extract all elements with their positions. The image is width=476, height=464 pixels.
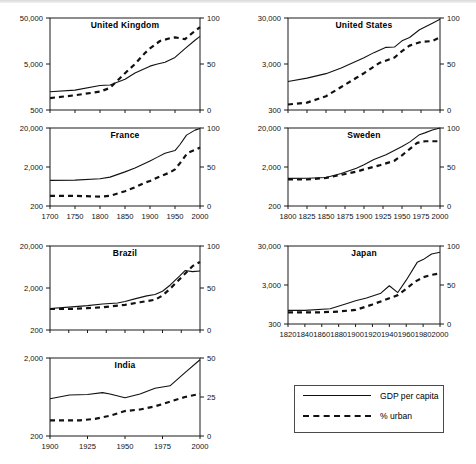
svg-text:0: 0 xyxy=(447,106,451,115)
svg-text:3,000: 3,000 xyxy=(262,281,281,290)
legend-label-urban: % urban xyxy=(380,411,412,421)
legend-swatch-solid-line xyxy=(303,391,371,401)
svg-text:1800: 1800 xyxy=(280,212,297,221)
svg-text:100: 100 xyxy=(207,124,220,133)
svg-text:3,000: 3,000 xyxy=(262,60,281,69)
svg-text:0: 0 xyxy=(207,432,211,441)
svg-text:United States: United States xyxy=(336,20,393,30)
legend-entry-urban: % urban xyxy=(295,406,443,426)
svg-text:50: 50 xyxy=(207,354,215,363)
svg-text:20,000: 20,000 xyxy=(258,124,281,133)
legend-entry-gdp: GDP per capita xyxy=(295,386,443,406)
svg-text:5,000: 5,000 xyxy=(24,60,43,69)
svg-text:100: 100 xyxy=(447,14,460,23)
svg-text:1820: 1820 xyxy=(280,330,297,339)
panel-united-states: 3003,00030,000050100United States xyxy=(238,8,476,120)
svg-text:2,000: 2,000 xyxy=(262,163,281,172)
svg-text:100: 100 xyxy=(207,14,220,23)
svg-text:1850: 1850 xyxy=(117,212,134,221)
svg-text:25: 25 xyxy=(207,393,215,402)
svg-text:1920: 1920 xyxy=(364,330,381,339)
svg-text:1880: 1880 xyxy=(330,330,347,339)
svg-text:50: 50 xyxy=(447,60,455,69)
svg-text:1900: 1900 xyxy=(142,212,159,221)
svg-text:1975: 1975 xyxy=(154,442,171,451)
svg-text:1840: 1840 xyxy=(296,330,313,339)
svg-text:1900: 1900 xyxy=(42,442,59,451)
svg-text:1925: 1925 xyxy=(79,442,96,451)
svg-text:1750: 1750 xyxy=(67,212,84,221)
panel-brazil: 2002,00020,000050100Brazil xyxy=(0,236,236,340)
panel-united-kingdom: 5005,00050,000050100United Kingdom xyxy=(0,8,236,120)
svg-text:1940: 1940 xyxy=(381,330,398,339)
svg-text:1825: 1825 xyxy=(299,212,316,221)
svg-text:200: 200 xyxy=(30,202,43,211)
svg-text:300: 300 xyxy=(268,106,281,115)
svg-text:2000: 2000 xyxy=(192,212,209,221)
svg-text:1975: 1975 xyxy=(413,212,430,221)
svg-text:30,000: 30,000 xyxy=(258,242,281,251)
svg-text:1950: 1950 xyxy=(167,212,184,221)
svg-text:0: 0 xyxy=(447,202,451,211)
svg-text:Japan: Japan xyxy=(351,248,377,258)
svg-text:300: 300 xyxy=(268,320,281,329)
svg-text:1850: 1850 xyxy=(318,212,335,221)
legend-swatch-dashed-line xyxy=(303,411,371,421)
svg-text:Brazil: Brazil xyxy=(113,248,137,258)
panel-japan: 3003,00030,00005010018201840186018801900… xyxy=(238,236,476,348)
svg-text:1860: 1860 xyxy=(313,330,330,339)
svg-text:0: 0 xyxy=(207,326,211,335)
svg-text:0: 0 xyxy=(207,106,211,115)
svg-text:2000: 2000 xyxy=(432,212,449,221)
scan-artifact-line xyxy=(0,0,476,3)
svg-text:50: 50 xyxy=(207,163,215,172)
svg-text:1980: 1980 xyxy=(415,330,432,339)
svg-text:1875: 1875 xyxy=(337,212,354,221)
svg-text:50,000: 50,000 xyxy=(20,14,43,23)
svg-text:2,000: 2,000 xyxy=(24,284,43,293)
svg-text:30,000: 30,000 xyxy=(258,14,281,23)
legend: GDP per capita % urban xyxy=(294,385,444,433)
panel-france: 2002,00020,00005010017001750180018501900… xyxy=(0,118,236,230)
svg-text:1900: 1900 xyxy=(356,212,373,221)
svg-text:50: 50 xyxy=(207,60,215,69)
svg-text:50: 50 xyxy=(447,163,455,172)
svg-text:1700: 1700 xyxy=(42,212,59,221)
svg-text:1950: 1950 xyxy=(394,212,411,221)
svg-text:2000: 2000 xyxy=(432,330,449,339)
svg-text:50: 50 xyxy=(207,284,215,293)
svg-text:0: 0 xyxy=(447,320,451,329)
svg-text:2,000: 2,000 xyxy=(24,354,43,363)
panel-sweden: 2002,00020,00005010018001825185018751900… xyxy=(238,118,476,230)
svg-text:India: India xyxy=(115,360,136,370)
svg-text:2000: 2000 xyxy=(192,442,209,451)
svg-text:1960: 1960 xyxy=(398,330,415,339)
svg-text:1925: 1925 xyxy=(375,212,392,221)
svg-text:United Kingdom: United Kingdom xyxy=(91,20,160,30)
svg-text:0: 0 xyxy=(207,202,211,211)
svg-text:2,000: 2,000 xyxy=(24,163,43,172)
svg-text:1950: 1950 xyxy=(117,442,134,451)
svg-text:100: 100 xyxy=(447,242,460,251)
svg-text:200: 200 xyxy=(30,326,43,335)
svg-text:1900: 1900 xyxy=(347,330,364,339)
svg-text:50: 50 xyxy=(447,281,455,290)
svg-text:20,000: 20,000 xyxy=(20,242,43,251)
svg-text:France: France xyxy=(110,130,139,140)
svg-text:Sweden: Sweden xyxy=(347,130,380,140)
svg-text:200: 200 xyxy=(30,432,43,441)
svg-text:1800: 1800 xyxy=(92,212,109,221)
svg-text:100: 100 xyxy=(447,124,460,133)
svg-text:20,000: 20,000 xyxy=(20,124,43,133)
svg-text:500: 500 xyxy=(30,106,43,115)
svg-text:200: 200 xyxy=(268,202,281,211)
svg-text:100: 100 xyxy=(207,242,220,251)
panel-india: 2002,0000255019001925195019752000India xyxy=(0,348,236,460)
legend-label-gdp: GDP per capita xyxy=(380,391,439,401)
